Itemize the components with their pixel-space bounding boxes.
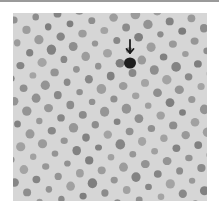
lattice-dot xyxy=(108,154,115,160)
lattice-dot xyxy=(175,85,184,94)
lattice-dot xyxy=(160,54,168,61)
lattice-dot xyxy=(129,69,137,77)
lattice-dot xyxy=(200,24,207,32)
lattice-dot xyxy=(92,121,99,129)
lattice-dot xyxy=(191,38,199,45)
lattice-dot xyxy=(78,30,86,38)
lattice-dot xyxy=(20,85,28,93)
lattice-dot xyxy=(101,189,108,196)
lattice-dot xyxy=(114,199,121,201)
lattice-dot xyxy=(158,194,165,201)
lattice-dot xyxy=(23,189,31,197)
lattice-dot xyxy=(179,189,187,198)
lattice-dot xyxy=(44,104,53,112)
lattice-dot xyxy=(76,89,83,95)
lattice-dot xyxy=(116,59,125,67)
lattice-dot xyxy=(14,120,21,127)
lattice-dot xyxy=(131,13,141,19)
lattice-dot xyxy=(185,73,193,80)
lattice-dot xyxy=(88,178,97,188)
lattice-dot xyxy=(203,48,207,55)
lattice-dot xyxy=(81,52,90,61)
lattice-dot xyxy=(75,13,84,15)
lattice-dot xyxy=(206,151,207,159)
lattice-dot xyxy=(85,156,93,164)
lattice-dot xyxy=(169,41,177,48)
lattice-dot xyxy=(36,199,43,201)
lattice-dot xyxy=(92,40,98,46)
lattice-dot xyxy=(14,39,21,46)
lattice-dot xyxy=(50,69,58,77)
lattice-dot xyxy=(185,155,192,162)
lattice-dot xyxy=(66,182,75,191)
lattice-dot xyxy=(98,166,106,174)
lattice-dot xyxy=(34,35,43,44)
lattice-dot xyxy=(58,196,64,201)
lattice-dot xyxy=(69,123,78,133)
lattice-dot xyxy=(16,62,24,69)
lattice-dot xyxy=(85,75,93,84)
lattice-dot xyxy=(64,79,71,86)
lattice-dot xyxy=(182,51,189,57)
lattice-dot xyxy=(114,118,121,125)
lattice-dot xyxy=(166,18,174,26)
lattice-dot xyxy=(111,177,118,184)
lattice-dot xyxy=(30,72,37,78)
lattice-dot xyxy=(46,186,52,193)
lattice-dot xyxy=(145,103,152,109)
lattice-dot xyxy=(97,84,107,94)
lattice-dot xyxy=(76,169,84,177)
lattice-dot xyxy=(136,197,143,201)
lattice-dot xyxy=(150,65,159,75)
lattice-dot xyxy=(131,172,140,182)
lattice-dot xyxy=(13,157,15,163)
lattice-dot xyxy=(103,49,112,57)
lattice-dot xyxy=(57,114,65,121)
lattice-dot xyxy=(72,146,81,155)
lattice-dot xyxy=(47,44,56,54)
top-rule xyxy=(0,0,219,2)
arrow-down-icon xyxy=(127,40,134,53)
lattice-dot xyxy=(95,144,102,150)
lattice-dot xyxy=(162,75,171,84)
lattice-dot xyxy=(54,13,62,18)
lattice-dot xyxy=(147,42,156,52)
lattice-dot xyxy=(188,96,195,103)
lattice-dot xyxy=(123,186,131,194)
lattice-dot xyxy=(38,139,47,148)
lattice-dot xyxy=(166,179,175,188)
lattice-dot xyxy=(153,89,162,98)
dot-lattice xyxy=(13,13,207,201)
lattice-dot xyxy=(138,56,147,65)
lattice-dot xyxy=(122,104,131,114)
lattice-dot xyxy=(126,128,134,135)
lattice-dot xyxy=(73,66,80,73)
lattice-dot xyxy=(64,160,71,166)
lattice-dot xyxy=(129,151,136,157)
lattice-dot xyxy=(95,63,101,70)
lattice-dot xyxy=(41,81,50,90)
lattice-dot xyxy=(145,184,152,190)
lattice-dot xyxy=(160,135,167,143)
lattice-dot xyxy=(42,163,49,170)
lattice-dot xyxy=(192,200,199,201)
lattice-dot xyxy=(132,92,139,99)
lattice-dot xyxy=(100,107,109,117)
lattice-dot xyxy=(113,37,120,44)
lattice-dot xyxy=(157,31,163,37)
lattice-dot xyxy=(119,163,128,172)
lattice-dot xyxy=(61,137,68,144)
lattice-dot xyxy=(198,83,205,90)
lattice-dot xyxy=(36,118,42,125)
lattice-dot xyxy=(13,75,15,82)
lattice-dot xyxy=(104,130,112,138)
lattice-dot xyxy=(61,56,68,63)
lattice-dot xyxy=(16,142,25,151)
lattice-dot xyxy=(54,91,62,99)
lattice-dot xyxy=(200,186,207,195)
lattice-dot xyxy=(89,99,96,105)
lattice-dot xyxy=(79,111,87,119)
lattice-dot xyxy=(194,60,202,67)
lattice-dot xyxy=(182,131,190,139)
lattice-dot xyxy=(32,13,39,20)
